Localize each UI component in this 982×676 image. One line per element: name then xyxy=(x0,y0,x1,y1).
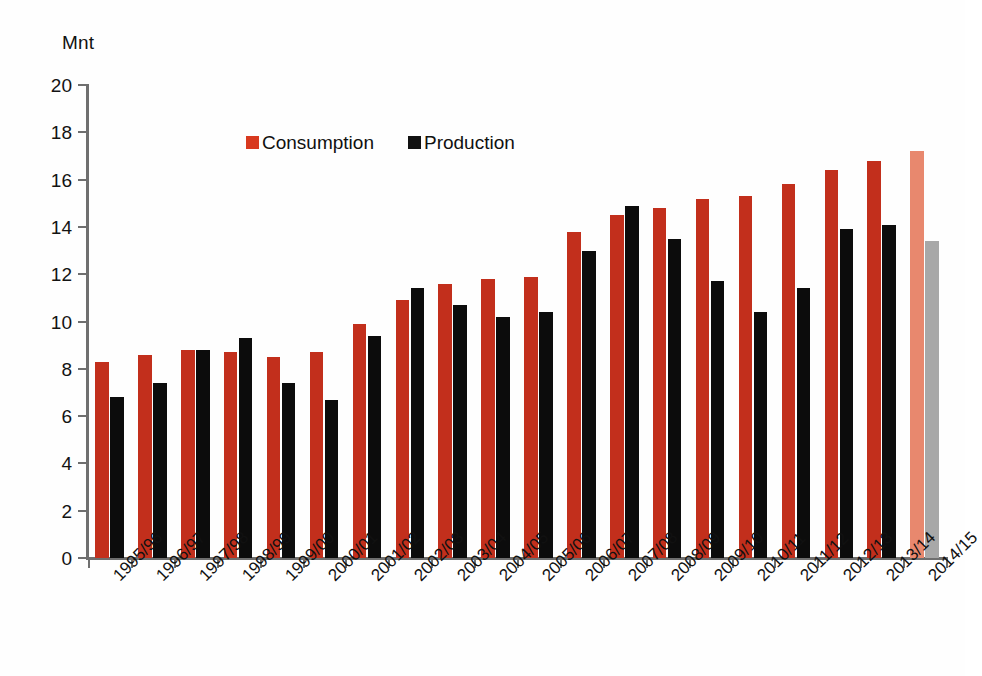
bar-consumption-1999-00 xyxy=(267,357,281,558)
y-axis-tick xyxy=(78,415,87,417)
y-axis-tick xyxy=(78,131,87,133)
bar-production-2010-11 xyxy=(754,312,768,558)
y-axis-tick xyxy=(78,321,87,323)
bar-production-1995-96 xyxy=(110,397,124,558)
bar-production-2001-02 xyxy=(368,336,382,558)
y-axis-tick-label: 12 xyxy=(14,265,72,284)
bar-production-2004-05 xyxy=(496,317,510,558)
y-axis-tick-label: 2 xyxy=(14,501,72,520)
plot-area xyxy=(88,85,946,558)
bar-production-2003-04 xyxy=(453,305,467,558)
bar-production-2007-08 xyxy=(625,206,639,558)
x-axis-tick xyxy=(88,559,90,568)
y-axis-tick-label: 16 xyxy=(14,170,72,189)
y-axis-tick xyxy=(78,84,87,86)
bar-production-1998-99 xyxy=(239,338,253,558)
bar-consumption-1997-98 xyxy=(181,350,195,558)
bar-consumption-2003-04 xyxy=(438,284,452,558)
bar-production-2013-14 xyxy=(882,225,896,558)
y-axis-tick xyxy=(78,557,87,559)
bar-production-1997-98 xyxy=(196,350,210,558)
y-axis-tick-label: 10 xyxy=(14,312,72,331)
y-axis-tick xyxy=(78,179,87,181)
bar-consumption-2013-14 xyxy=(867,161,881,558)
y-axis-tick xyxy=(78,226,87,228)
y-axis-tick-label: 20 xyxy=(14,76,72,95)
y-axis-tick-label: 6 xyxy=(14,407,72,426)
bar-consumption-2005-06 xyxy=(524,277,538,558)
bar-consumption-1998-99 xyxy=(224,352,238,558)
y-axis-tick xyxy=(78,273,87,275)
bar-production-2008-09 xyxy=(668,239,682,558)
bar-consumption-2000-01 xyxy=(310,352,324,558)
bar-consumption-2011-12 xyxy=(782,184,796,558)
bar-consumption-2014-15 xyxy=(910,151,924,558)
bar-consumption-2010-11 xyxy=(739,196,753,558)
bar-consumption-2007-08 xyxy=(610,215,624,558)
y-axis-unit-label: Mnt xyxy=(62,32,94,54)
bar-production-2002-03 xyxy=(411,288,425,558)
bar-consumption-1995-96 xyxy=(95,362,109,558)
y-axis-tick-label: 14 xyxy=(14,217,72,236)
bar-consumption-2008-09 xyxy=(653,208,667,558)
y-axis-tick-label: 18 xyxy=(14,123,72,142)
bar-production-2009-10 xyxy=(711,281,725,558)
y-axis-tick-label: 4 xyxy=(14,454,72,473)
y-axis-tick-label: 0 xyxy=(14,549,72,568)
bar-consumption-2001-02 xyxy=(353,324,367,558)
bar-production-2011-12 xyxy=(797,288,811,558)
bar-production-2012-13 xyxy=(840,229,854,558)
bar-consumption-2002-03 xyxy=(396,300,410,558)
y-axis-tick xyxy=(78,510,87,512)
bar-production-2006-07 xyxy=(582,251,596,558)
bar-consumption-2012-13 xyxy=(825,170,839,558)
bar-consumption-2006-07 xyxy=(567,232,581,558)
bar-consumption-2004-05 xyxy=(481,279,495,558)
y-axis-tick xyxy=(78,368,87,370)
bar-consumption-2009-10 xyxy=(696,199,710,558)
bar-production-2014-15 xyxy=(925,241,939,558)
bar-production-2005-06 xyxy=(539,312,553,558)
y-axis-tick-label: 8 xyxy=(14,359,72,378)
y-axis-tick xyxy=(78,462,87,464)
bar-consumption-1996-97 xyxy=(138,355,152,558)
